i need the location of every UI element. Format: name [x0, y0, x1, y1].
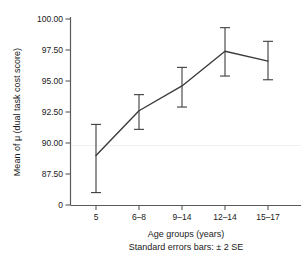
x-tick-label: 12–14	[213, 212, 237, 222]
error-bars-group	[91, 28, 273, 193]
x-axis-ticks	[96, 206, 268, 211]
y-axis-title: Mean of μ (dual task cost score)	[12, 48, 22, 176]
y-tick-label: 92.50	[42, 107, 64, 117]
chart-footnote: Standard errors bars: ± 2 SE	[129, 242, 244, 252]
y-tick-label: 95.00	[42, 76, 64, 86]
x-tick-label: 6–8	[132, 212, 146, 222]
y-tick-label: 90.00	[42, 138, 64, 148]
x-tick-label: 15–17	[256, 212, 280, 222]
x-tick-label: 9–14	[173, 212, 192, 222]
x-axis-title: Age groups (years)	[148, 229, 225, 239]
y-tick-label: 97.50	[42, 45, 64, 55]
y-tick-label: 87.50	[42, 169, 64, 179]
y-axis-ticks	[66, 19, 71, 205]
x-axis-tick-labels: 5 6–8 9–14 12–14 15–17	[94, 212, 280, 222]
y-tick-label: 0	[58, 200, 63, 210]
y-tick-label: 100.00	[37, 14, 63, 24]
y-axis-tick-labels: 100.00 97.50 95.00 92.50 90.00 87.50 0	[37, 14, 63, 210]
chart-container: 100.00 97.50 95.00 92.50 90.00 87.50 0 5…	[0, 0, 307, 257]
x-tick-label: 5	[94, 212, 99, 222]
line-chart-plot: 100.00 97.50 95.00 92.50 90.00 87.50 0 5…	[0, 0, 307, 257]
